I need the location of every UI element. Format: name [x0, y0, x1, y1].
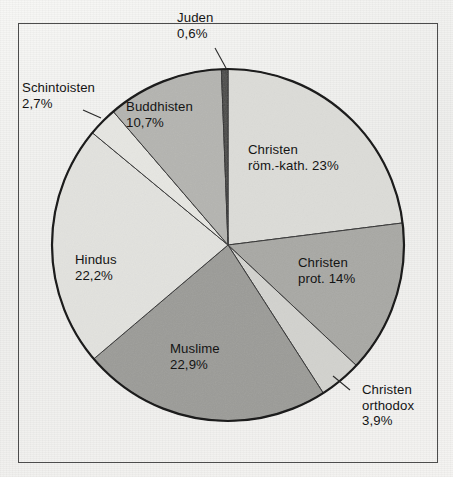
- label-hindus-value: 22,2%: [75, 268, 117, 284]
- label-buddhisten-name: Buddhisten: [126, 99, 193, 115]
- label-juden-name: Juden: [177, 10, 213, 26]
- label-christen-roem-kath-value: röm.-kath. 23%: [248, 158, 339, 174]
- label-muslime-value: 22,9%: [170, 357, 220, 373]
- label-christen-prot: Christen prot. 14%: [298, 255, 355, 286]
- label-buddhisten-value: 10,7%: [126, 115, 193, 131]
- label-hindus-name: Hindus: [75, 252, 117, 268]
- label-juden: Juden 0,6%: [177, 10, 213, 41]
- label-christen-roem-kath: Christen röm.-kath. 23%: [248, 142, 339, 173]
- label-hindus: Hindus 22,2%: [75, 252, 117, 283]
- label-schintoisten: Schintoisten 2,7%: [22, 80, 95, 111]
- label-christen-orthodox-name-2: orthodox: [362, 398, 414, 414]
- pie-slices-group: [52, 69, 404, 421]
- label-buddhisten: Buddhisten 10,7%: [126, 99, 193, 130]
- label-schintoisten-name: Schintoisten: [22, 80, 95, 96]
- pie-chart-figure: Juden 0,6% Schintoisten 2,7% Buddhisten …: [0, 0, 453, 477]
- label-christen-orthodox-name: Christen: [362, 382, 414, 398]
- label-christen-orthodox: Christen orthodox 3,9%: [362, 382, 414, 429]
- label-christen-orthodox-value: 3,9%: [362, 413, 414, 429]
- label-muslime: Muslime 22,9%: [170, 341, 220, 372]
- leader-line-schintoisten: [83, 110, 101, 118]
- label-christen-prot-name: Christen: [298, 255, 355, 271]
- label-schintoisten-value: 2,7%: [22, 96, 95, 112]
- label-muslime-name: Muslime: [170, 341, 220, 357]
- label-christen-roem-kath-name: Christen: [248, 142, 339, 158]
- label-juden-value: 0,6%: [177, 26, 213, 42]
- leader-line-juden: [215, 48, 226, 68]
- label-christen-prot-value: prot. 14%: [298, 271, 355, 287]
